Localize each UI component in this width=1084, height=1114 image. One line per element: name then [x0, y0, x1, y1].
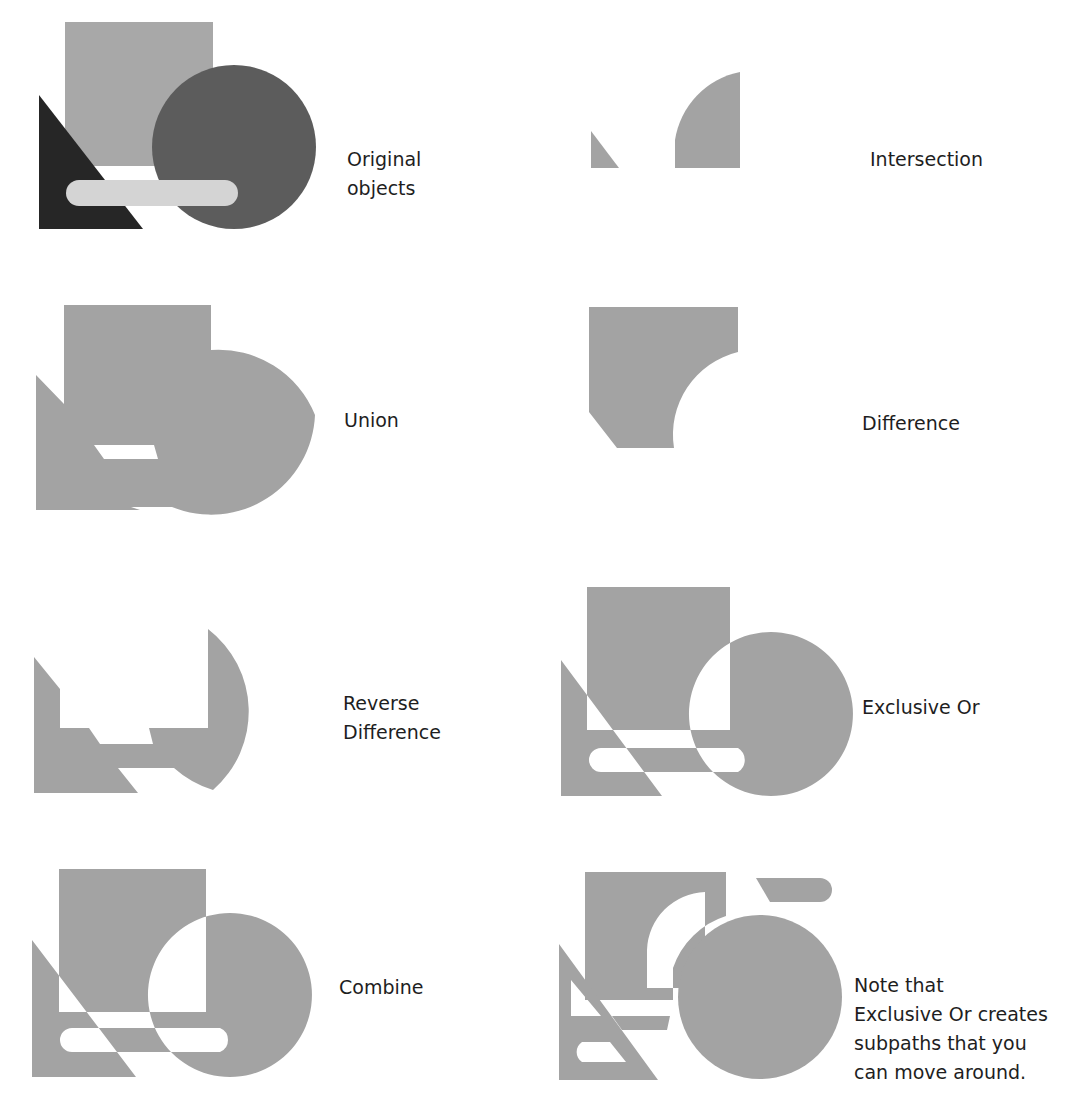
label-combine: Combine: [339, 973, 423, 1002]
label-exclusive-or: Exclusive Or: [862, 693, 980, 722]
label-original-objects: Original objects: [347, 145, 421, 203]
intersection-triangle-piece: [591, 131, 619, 168]
combine-figure: [0, 850, 540, 1090]
panel-intersection: Intersection: [540, 0, 1084, 260]
union-figure: [0, 290, 540, 530]
panel-reverse-difference: Reverse Difference: [0, 610, 540, 810]
bar-shape: [66, 180, 238, 206]
difference-shape: [589, 307, 738, 448]
intersection-arc-piece: [675, 72, 740, 168]
label-reverse-difference: Reverse Difference: [343, 689, 441, 747]
panel-xor-note: Note that Exclusive Or creates subpaths …: [540, 850, 1084, 1114]
union-shape: [36, 305, 315, 515]
panel-combine: Combine: [0, 850, 540, 1090]
exclusive-or-shape: [561, 587, 853, 796]
label-difference: Difference: [862, 409, 960, 438]
xor-subpath-moved-bar: [756, 878, 832, 902]
label-union: Union: [344, 406, 399, 435]
difference-figure: [540, 290, 1084, 470]
combine-shape: [32, 869, 312, 1077]
intersection-figure: [540, 0, 1084, 260]
label-intersection: Intersection: [870, 145, 983, 174]
xor-subpath-circle: [678, 915, 842, 1079]
panel-original-objects: Original objects: [0, 0, 540, 260]
panel-difference: Difference: [540, 290, 1084, 470]
panel-union: Union: [0, 290, 540, 530]
label-xor-note: Note that Exclusive Or creates subpaths …: [854, 971, 1048, 1087]
exclusive-or-figure: [540, 570, 1084, 810]
panel-exclusive-or: Exclusive Or: [540, 570, 1084, 810]
original-objects-figure: [0, 0, 540, 260]
reverse-difference-shape: [34, 629, 249, 793]
reverse-difference-figure: [0, 610, 540, 810]
